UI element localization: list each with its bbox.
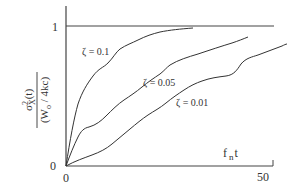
label-zeta-0.1: ζ = 0.1 <box>82 46 109 58</box>
y-axis-label: σ2X(t) (Wo / 4kc) <box>21 72 53 128</box>
y-label-num-rest: (t) <box>22 89 35 100</box>
y-label-den-rest: / 4kc) <box>38 77 51 105</box>
x-axis-label-f: f <box>223 146 227 160</box>
label-zeta-0.05: ζ = 0.05 <box>143 77 175 89</box>
x-axis-label-sub: n <box>229 152 234 162</box>
y-label-numerator: σ2X(t) <box>21 89 37 111</box>
y-tick-0: 0 <box>50 159 56 173</box>
chart-canvas: 1 0 0 50 fnt ζ = 0.1 ζ = 0.05 ζ = 0.01 σ… <box>0 0 300 192</box>
x-axis-label: fnt <box>223 146 239 162</box>
y-label-den-open: (W <box>38 108 51 123</box>
y-label-denominator: (Wo / 4kc) <box>38 77 53 123</box>
label-zeta-0.01: ζ = 0.01 <box>176 97 208 109</box>
y-tick-1: 1 <box>52 20 58 34</box>
x-tick-0: 0 <box>63 171 69 185</box>
x-axis-label-t: t <box>235 146 239 160</box>
x-tick-50: 50 <box>257 170 269 184</box>
